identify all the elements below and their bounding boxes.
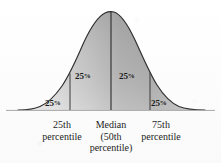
axis-label-median-line-3: percentile)	[66, 142, 156, 154]
pct-label-q4: 25%	[151, 99, 167, 108]
bell-curve-figure: 25% 25% 25% 25% 25th percentile Median (…	[0, 0, 221, 163]
axis-label-75th-line-2: percentile	[116, 131, 206, 143]
pct-label-q1-symbol: %	[54, 99, 61, 107]
pct-label-q2: 25%	[75, 72, 91, 81]
pct-label-q3-symbol: %	[128, 72, 135, 80]
pct-label-q2-value: 25	[75, 71, 84, 81]
pct-label-q3: 25%	[119, 72, 135, 81]
pct-label-q3-value: 25	[119, 71, 128, 81]
axis-label-75th-percentile: 75th percentile	[116, 119, 206, 142]
pct-label-q4-value: 25	[151, 98, 160, 108]
pct-label-q2-symbol: %	[84, 72, 91, 80]
pct-label-q1-value: 25	[45, 98, 54, 108]
pct-label-q1: 25%	[45, 99, 61, 108]
axis-label-75th-line-1: 75th	[116, 119, 206, 131]
pct-label-q4-symbol: %	[160, 99, 167, 107]
